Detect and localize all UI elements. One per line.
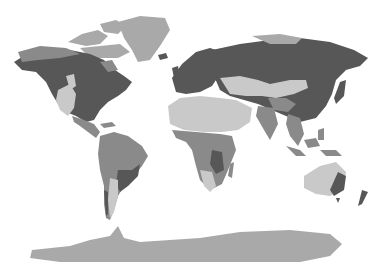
world-climate-map: [0, 0, 387, 273]
map-canvas: [0, 0, 387, 273]
